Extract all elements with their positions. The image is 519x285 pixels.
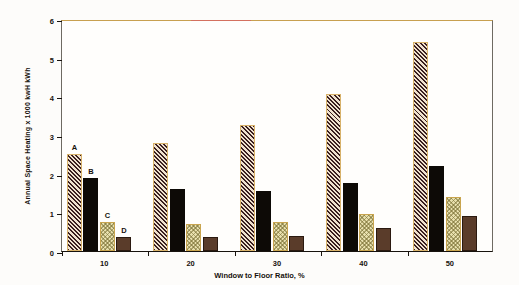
bar-c-40 xyxy=(359,214,374,251)
bar-a-40 xyxy=(326,94,341,251)
bar-c-10 xyxy=(100,222,115,251)
bar-d-20 xyxy=(203,237,218,251)
y-axis-title: Annual Space Heating x 1000 kwH kWh xyxy=(24,67,31,204)
y-tick-label: 4 xyxy=(42,94,54,103)
x-tick xyxy=(321,251,322,256)
bar-d-50 xyxy=(462,216,477,251)
bar-b-40 xyxy=(343,183,358,251)
series-annotation-b: B xyxy=(88,167,93,176)
y-tick-label: 3 xyxy=(42,133,54,142)
x-tick xyxy=(148,251,149,256)
x-tick xyxy=(408,251,409,256)
plot-area: 0123456 ABCD xyxy=(61,20,493,252)
bar-b-10 xyxy=(83,178,98,251)
y-tick-label: 5 xyxy=(42,55,54,64)
y-tick xyxy=(57,176,62,177)
bar-a-10 xyxy=(67,154,82,251)
series-annotation-d: D xyxy=(121,226,126,235)
x-tick-label-40: 40 xyxy=(359,259,367,268)
bar-d-40 xyxy=(376,228,391,251)
bar-b-20 xyxy=(170,189,185,251)
bar-b-50 xyxy=(429,166,444,251)
y-tick-label: 0 xyxy=(42,249,54,258)
x-tick-label-20: 20 xyxy=(186,259,194,268)
x-axis-title: Window to Floor Ratio, % xyxy=(0,271,519,280)
bar-c-20 xyxy=(186,224,201,251)
x-tick xyxy=(235,251,236,256)
bar-d-30 xyxy=(289,236,304,251)
chart-figure: Annual Space Heating x 1000 kwH kWh 0123… xyxy=(0,0,519,285)
series-annotation-a: A xyxy=(72,143,77,152)
y-tick xyxy=(57,21,62,22)
y-tick xyxy=(57,60,62,61)
y-tick xyxy=(57,98,62,99)
y-tick xyxy=(57,137,62,138)
top-border-accent xyxy=(191,20,251,22)
x-tick-label-10: 10 xyxy=(100,259,108,268)
y-tick-label: 6 xyxy=(42,17,54,26)
bar-a-20 xyxy=(153,143,168,251)
x-tick-label-50: 50 xyxy=(446,259,454,268)
series-annotation-c: C xyxy=(105,211,110,220)
y-axis-title-container: Annual Space Heating x 1000 kwH kWh xyxy=(18,20,36,252)
bar-a-50 xyxy=(413,42,428,251)
bar-d-10 xyxy=(116,237,131,251)
y-tick-label: 1 xyxy=(42,210,54,219)
x-tick-label-30: 30 xyxy=(273,259,281,268)
bar-a-30 xyxy=(240,125,255,251)
y-tick xyxy=(57,214,62,215)
x-tick xyxy=(62,251,63,256)
bar-c-30 xyxy=(273,222,288,251)
bar-c-50 xyxy=(446,197,461,251)
y-tick-label: 2 xyxy=(42,171,54,180)
bar-b-30 xyxy=(256,191,271,251)
